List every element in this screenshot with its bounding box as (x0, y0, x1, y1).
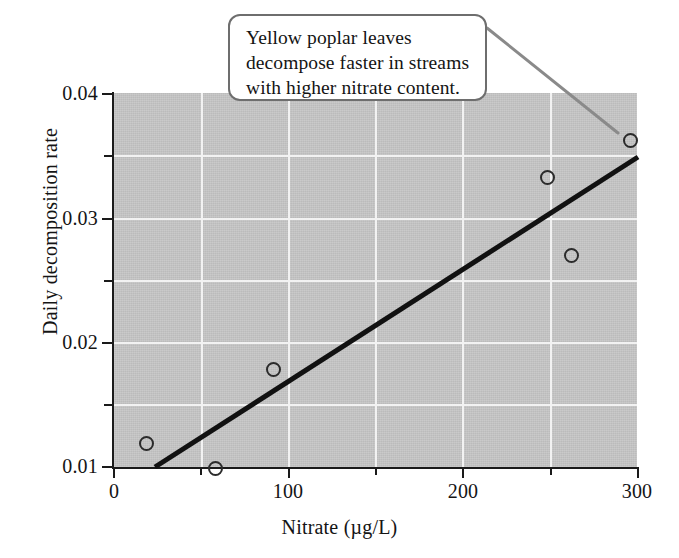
y-axis-tick-major (102, 93, 113, 95)
y-axis-tick-label: 0.01 (62, 456, 98, 476)
data-point-marker (266, 362, 281, 377)
plot-area (114, 93, 637, 467)
x-axis-tick-label: 300 (617, 481, 657, 501)
y-axis-tick-minor (104, 280, 113, 282)
x-axis-tick-minor (550, 467, 552, 475)
scatter-plot-figure: 0.04 0.03 0.02 0.01 0 100 200 300 Nitrat… (0, 0, 679, 558)
gridline-vertical (288, 93, 290, 467)
gridline-vertical (375, 93, 377, 467)
gridline-vertical (462, 93, 464, 467)
gridline-vertical (201, 93, 203, 467)
annotation-callout: Yellow poplar leaves decompose faster in… (228, 14, 487, 101)
x-axis-tick-minor (375, 467, 377, 475)
x-axis-tick-label: 200 (443, 481, 483, 501)
y-axis-tick-label: 0.03 (62, 208, 98, 228)
x-axis-tick-major (113, 467, 115, 478)
x-axis-tick-major (288, 467, 290, 478)
y-axis-tick-minor (104, 404, 113, 406)
x-axis-title: Nitrate (µg/L) (0, 516, 679, 539)
y-axis-tick-label: 0.04 (62, 83, 98, 103)
y-axis-tick-minor (104, 155, 113, 157)
y-axis-tick-major (102, 342, 113, 344)
x-axis-tick-label: 100 (268, 481, 308, 501)
data-point-marker (540, 170, 555, 185)
y-axis-tick-label: 0.02 (62, 332, 98, 352)
x-axis-tick-major (462, 467, 464, 478)
data-point-marker (623, 133, 638, 148)
y-axis-title: Daily decomposition rate (39, 82, 62, 382)
data-point-marker (564, 248, 579, 263)
x-axis-tick-label: 0 (94, 481, 134, 501)
gridline-vertical (550, 93, 552, 467)
data-point-marker (208, 461, 223, 476)
x-axis-tick-major (637, 467, 639, 478)
x-axis-tick-minor (200, 467, 202, 475)
data-point-marker (139, 436, 154, 451)
annotation-line: decompose faster in streams (246, 50, 473, 75)
y-axis-tick-major (102, 466, 113, 468)
annotation-line: with higher nitrate content. (246, 75, 473, 100)
y-axis-tick-major (102, 218, 113, 220)
annotation-line: Yellow poplar leaves (246, 25, 473, 50)
